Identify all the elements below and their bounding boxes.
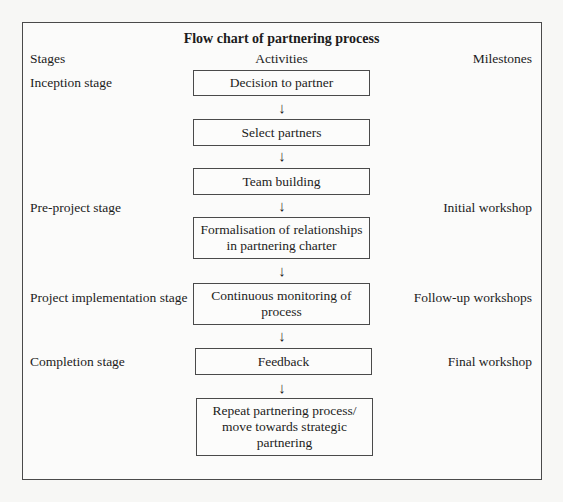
activity-label: Select partners — [242, 125, 322, 141]
milestone-initial-workshop: Initial workshop — [443, 200, 532, 216]
activity-box-formalisation: Formalisation of relationships in partne… — [193, 217, 370, 259]
activity-label: Team building — [242, 174, 320, 190]
activity-label: Feedback — [258, 354, 310, 370]
activity-label: Decision to partner — [230, 75, 333, 91]
arrow-down-icon: ↓ — [272, 101, 292, 115]
activity-label-line-2: in partnering charter — [226, 238, 336, 254]
activity-box-team-building: Team building — [193, 168, 370, 195]
activity-box-continuous-monitoring: Continuous monitoring of process — [193, 283, 370, 325]
activity-label-line-2: process — [261, 304, 302, 320]
activity-label-line-1: Continuous monitoring of — [211, 288, 351, 304]
stage-project-implementation: Project implementation stage — [30, 290, 187, 306]
arrow-down-icon: ↓ — [272, 329, 292, 343]
activity-label-line-1: Repeat partnering process/ — [213, 403, 357, 419]
activity-label-line-1: Formalisation of relationships — [201, 222, 363, 238]
arrow-down-icon: ↓ — [272, 149, 292, 163]
diagram-title-text: Flow chart of partnering process — [184, 31, 380, 47]
activity-box-feedback: Feedback — [195, 348, 372, 375]
stage-pre-project: Pre-project stage — [30, 200, 121, 216]
activity-label-line-2: move towards strategic — [222, 419, 347, 435]
header-milestones: Milestones — [473, 51, 532, 67]
stage-completion: Completion stage — [30, 354, 125, 370]
arrow-down-icon: ↓ — [272, 199, 292, 213]
milestone-follow-up-workshops: Follow-up workshops — [414, 290, 532, 306]
milestone-final-workshop: Final workshop — [448, 354, 532, 370]
activity-box-select-partners: Select partners — [193, 119, 370, 146]
activity-box-decision-to-partner: Decision to partner — [193, 70, 370, 96]
arrow-down-icon: ↓ — [272, 264, 292, 278]
stage-inception: Inception stage — [30, 75, 112, 91]
activity-label-line-3: partnering — [257, 435, 312, 451]
header-activities: Activities — [193, 51, 370, 67]
activity-box-repeat-partnering: Repeat partnering process/ move towards … — [196, 398, 373, 456]
header-stages: Stages — [30, 51, 65, 67]
diagram-title: Flow chart of partnering process — [0, 31, 563, 47]
arrow-down-icon: ↓ — [272, 381, 292, 395]
